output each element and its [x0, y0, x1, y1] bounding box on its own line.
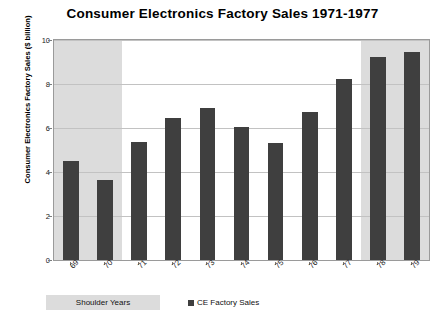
bar	[234, 127, 250, 260]
y-tickmark	[48, 172, 52, 173]
y-tick-label: 2	[24, 212, 50, 221]
y-tickmark	[48, 260, 52, 261]
bar	[200, 108, 216, 260]
chart-title: Consumer Electronics Factory Sales 1971-…	[0, 6, 445, 21]
x-axis-ticks: 6970717273747576777879	[53, 262, 430, 292]
y-axis-ticks: 0246810	[20, 39, 50, 261]
bar	[336, 79, 352, 261]
bar	[131, 142, 147, 260]
bar	[63, 161, 79, 260]
series-legend: CE Factory Sales	[188, 296, 259, 309]
bar	[97, 180, 113, 260]
bar	[302, 112, 318, 261]
y-tick-label: 6	[24, 124, 50, 133]
shoulder-years-legend-label: Shoulder Years	[76, 298, 130, 307]
chart-container: Consumer Electronics Factory Sales 1971-…	[0, 0, 445, 324]
y-tickmark	[48, 40, 52, 41]
y-tickmark	[48, 128, 52, 129]
series-legend-label: CE Factory Sales	[197, 298, 259, 307]
shoulder-years-legend: Shoulder Years	[46, 295, 160, 310]
gridline	[54, 40, 429, 41]
y-tickmark	[48, 84, 52, 85]
y-tick-label: 4	[24, 168, 50, 177]
bar	[370, 57, 386, 261]
bar	[165, 118, 181, 260]
y-tick-label: 0	[24, 256, 50, 265]
series-legend-swatch	[188, 300, 194, 306]
y-tick-label: 8	[24, 80, 50, 89]
bar	[404, 52, 420, 260]
y-tick-label: 10	[24, 36, 50, 45]
bar	[268, 143, 284, 260]
plot-inner	[54, 40, 429, 260]
y-tickmark	[48, 216, 52, 217]
plot-area	[53, 39, 430, 261]
